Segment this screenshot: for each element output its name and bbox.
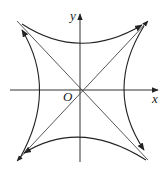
hyperbola-left-branch bbox=[20, 30, 40, 158]
x-axis-label: x bbox=[151, 91, 158, 106]
hyperbola-right-branch bbox=[124, 26, 144, 150]
hyperbola-top-branch bbox=[22, 24, 142, 43]
y-axis-label: y bbox=[68, 8, 76, 23]
hyperbola-bottom-branch bbox=[24, 137, 146, 160]
origin-label: O bbox=[63, 89, 73, 104]
hyperbola-diagram: y x O bbox=[0, 0, 168, 174]
